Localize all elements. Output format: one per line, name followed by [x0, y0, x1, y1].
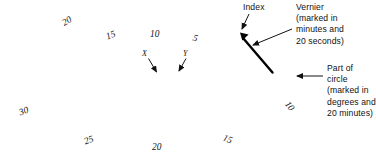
vernier-callout-arrow — [253, 29, 292, 45]
vernier-line-3: minutes and — [296, 24, 374, 35]
vernier-annotation: Vernier (marked in minutes and 20 second… — [296, 2, 374, 47]
circle-line-3: (marked in — [327, 85, 376, 96]
index-annotation: Index — [243, 2, 265, 13]
scale-label-l20: 20 — [152, 142, 161, 152]
scale-label-u10: 10 — [150, 29, 159, 39]
vernier-line-2: (marked in — [296, 13, 374, 24]
circle-line-4: degrees and — [327, 97, 376, 108]
marker-y-arrow — [179, 59, 186, 72]
vernier-line-1: Vernier — [296, 2, 374, 13]
circle-line-2: circle — [327, 74, 376, 85]
index-callout-arrow — [242, 14, 249, 29]
circle-annotation: Part of circle (marked in degrees and 20… — [327, 63, 376, 119]
marker-y-label: Y — [183, 49, 187, 58]
diagram-canvas: 20 15 10 5 30 25 20 15 10 X Y Index Vern… — [0, 0, 376, 163]
circle-line-5: 20 minutes) — [327, 108, 376, 119]
marker-x-label: X — [142, 49, 147, 58]
marker-x-arrow — [149, 59, 157, 73]
vernier-line-4: 20 seconds) — [296, 36, 374, 47]
circle-line-1: Part of — [327, 63, 376, 74]
